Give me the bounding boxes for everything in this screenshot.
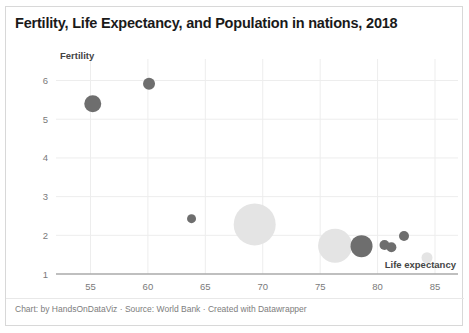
x-axis-tick-label: 70	[257, 281, 268, 292]
y-axis-title: Fertility	[60, 50, 95, 61]
x-axis-tick-label: 75	[315, 281, 326, 292]
x-axis-tick-label: 85	[430, 281, 441, 292]
y-axis-tick-label: 4	[43, 152, 48, 163]
y-axis-tick-label: 1	[43, 269, 48, 280]
data-bubble[interactable]	[187, 214, 196, 223]
x-axis-tick-label: 80	[372, 281, 383, 292]
plot-svg: 12345655606570758085FertilityLife expect…	[6, 7, 464, 327]
data-bubble[interactable]	[351, 235, 373, 257]
scatter-plot[interactable]: 12345655606570758085FertilityLife expect…	[6, 7, 464, 327]
data-bubble[interactable]	[143, 78, 155, 90]
x-axis-tick-label: 65	[200, 281, 211, 292]
data-bubble[interactable]	[399, 231, 409, 241]
y-axis-tick-label: 6	[43, 75, 48, 86]
data-bubble[interactable]	[318, 229, 352, 263]
x-axis-tick-label: 55	[85, 281, 96, 292]
x-axis-title: Life expectancy	[385, 259, 457, 270]
y-axis-tick-label: 3	[43, 191, 48, 202]
y-axis-tick-label: 5	[43, 114, 48, 125]
data-bubble[interactable]	[386, 242, 396, 252]
footer-divider	[6, 298, 464, 299]
y-axis-tick-label: 2	[43, 230, 48, 241]
x-axis-tick-label: 60	[143, 281, 154, 292]
chart-credit-footer: Chart: by HandsOnDataViz · Source: World…	[15, 304, 307, 314]
data-bubble[interactable]	[84, 95, 101, 112]
data-bubble[interactable]	[421, 252, 432, 263]
chart-card: Fertility, Life Expectancy, and Populati…	[5, 6, 463, 326]
data-bubble[interactable]	[234, 203, 276, 245]
